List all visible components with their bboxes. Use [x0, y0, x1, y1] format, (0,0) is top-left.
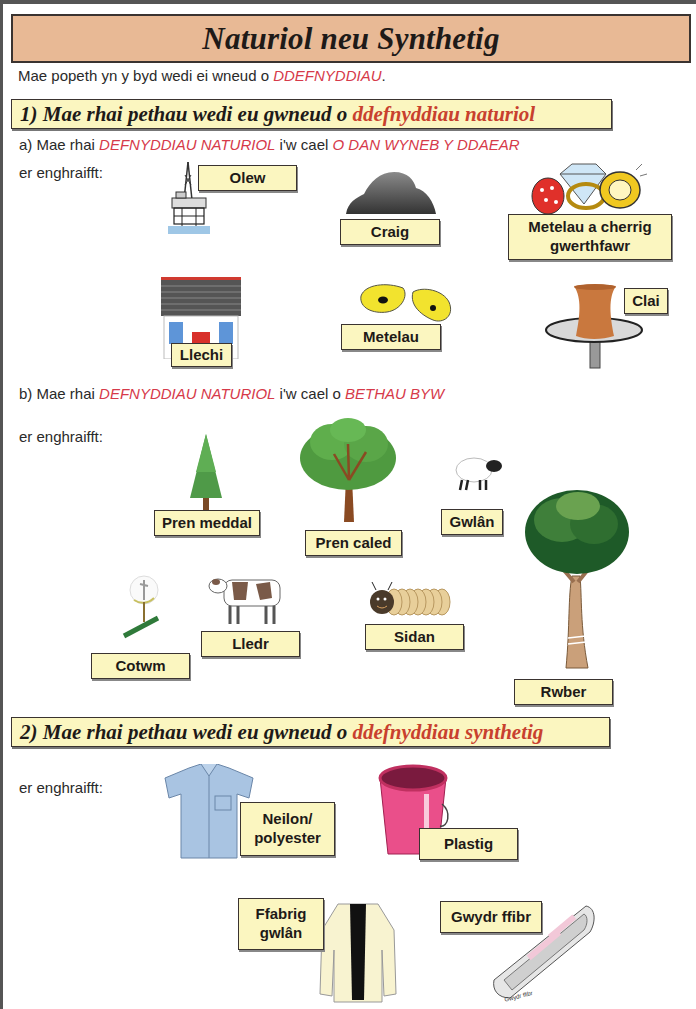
section2-example-label: er enghraifft:	[19, 779, 103, 796]
label-plastig: Plastig	[419, 828, 518, 860]
deciduous-tree-icon	[296, 418, 400, 526]
label-rwber: Rwber	[514, 679, 613, 705]
label-llechi: Llechi	[171, 343, 232, 367]
label-line1: Metelau a cherrig	[528, 218, 651, 235]
cow-icon	[208, 570, 286, 628]
part-b-example-label: er enghraifft:	[19, 428, 103, 445]
label-craig: Craig	[340, 219, 440, 245]
rubber-tree-icon	[522, 486, 632, 672]
label-pren-caled: Pren caled	[305, 530, 402, 556]
label-neilon-polyester: Neilon/polyester	[240, 802, 335, 856]
jewels-icon	[528, 160, 648, 216]
silkworm-icon	[368, 580, 452, 618]
label-metelau: Metelau	[341, 324, 441, 350]
label-gwlan: Gwlân	[441, 509, 503, 535]
intro-highlight: DDEFNYDDIAU	[273, 67, 381, 84]
cotton-plant-icon	[120, 572, 166, 640]
label-olew: Olew	[198, 165, 297, 191]
label-cotwm: Cotwm	[91, 653, 190, 679]
conifer-tree-icon	[186, 432, 226, 512]
title-banner: Naturiol neu Synthetig	[11, 14, 691, 63]
part-a-prefix: a) Mae rhai	[19, 136, 99, 153]
section2-heading: 2) Mae rhai pethau wedi eu gwneud o ddef…	[11, 717, 610, 747]
page-title: Naturiol neu Synthetig	[202, 21, 499, 57]
intro-prefix: Mae popeth yn y byd wedi ei wneud o	[18, 67, 273, 84]
section1-heading-prefix: 1) Mae rhai pethau wedi eu gwneud o	[20, 102, 353, 126]
part-a-text: a) Mae rhai DEFNYDDIAU NATURIOL i'w cael…	[19, 136, 520, 153]
label-line2: polyester	[254, 829, 321, 846]
part-a-highlight2: O DAN WYNEB Y DDAEAR	[333, 136, 520, 153]
rock-icon	[342, 168, 438, 216]
label-line1: Neilon/	[262, 810, 312, 827]
section1-heading: 1) Mae rhai pethau wedi eu gwneud o ddef…	[11, 99, 612, 129]
label-gwydr-ffibr: Gwydr ffibr	[440, 901, 542, 933]
part-b-middle: i'w cael o	[275, 385, 345, 402]
label-line2: gwerthfawr	[550, 237, 630, 254]
section2-heading-prefix: 2) Mae rhai pethau wedi eu gwneud o	[20, 720, 353, 744]
intro-end: .	[382, 67, 386, 84]
label-clai: Clai	[624, 288, 668, 314]
part-a-example-label: er enghraifft:	[19, 164, 103, 181]
label-lledr: Lledr	[201, 631, 300, 657]
section2-heading-highlight: ddefnyddiau synthetig	[353, 720, 544, 744]
coat-icon	[318, 900, 398, 1004]
label-sidan: Sidan	[365, 624, 464, 650]
label-line1: Ffabrig	[256, 905, 307, 922]
label-ffabrig-gwlan: Ffabriggwlân	[238, 898, 324, 950]
section1-heading-highlight: ddefnyddiau naturiol	[353, 102, 536, 126]
part-b-text: b) Mae rhai DEFNYDDIAU NATURIOL i'w cael…	[19, 385, 444, 402]
label-metelau-a-cherrig: Metelau a cherriggwerthfawr	[508, 214, 672, 260]
part-b-highlight2: BETHAU BYW	[345, 385, 444, 402]
label-line2: gwlân	[260, 924, 303, 941]
part-b-highlight1: DEFNYDDIAU NATURIOL	[99, 385, 275, 402]
sheep-icon	[452, 452, 504, 494]
part-b-prefix: b) Mae rhai	[19, 385, 99, 402]
metal-ore-icon	[357, 282, 457, 326]
part-a-highlight1: DEFNYDDIAU NATURIOL	[99, 136, 275, 153]
part-a-middle: i'w cael	[275, 136, 332, 153]
intro-text: Mae popeth yn y byd wedi ei wneud o DDEF…	[18, 67, 386, 84]
label-pren-meddal: Pren meddal	[154, 510, 260, 536]
